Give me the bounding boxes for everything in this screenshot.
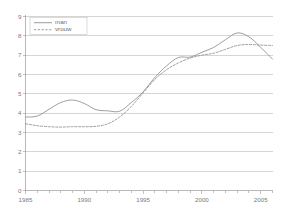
y-tick-label: 7 — [18, 51, 22, 58]
x-tick-label: 1990 — [77, 196, 91, 203]
line-chart: 0123456789 19851990199520002005 man vrou… — [0, 0, 287, 214]
x-tick-label: 2000 — [195, 196, 209, 203]
legend-label-man: man — [55, 18, 68, 25]
y-tick-label: 3 — [18, 129, 22, 136]
x-tick-label: 1985 — [19, 196, 33, 203]
x-tick-label: 1995 — [136, 196, 150, 203]
legend-label-vrouw: vrouw — [55, 25, 72, 32]
chart-canvas: 0123456789 19851990199520002005 man vrou… — [0, 0, 287, 214]
y-tick-label: 5 — [18, 90, 22, 97]
y-tick-label: 8 — [18, 32, 22, 39]
y-tick-label: 9 — [18, 13, 22, 20]
y-tick-label: 0 — [18, 187, 22, 194]
y-tick-label: 1 — [18, 167, 22, 174]
y-tick-label: 4 — [18, 109, 22, 116]
y-tick-label: 6 — [18, 71, 22, 78]
chart-legend: man vrouw — [30, 18, 87, 35]
y-tick-label: 2 — [18, 148, 22, 155]
x-tick-label: 2005 — [254, 196, 268, 203]
